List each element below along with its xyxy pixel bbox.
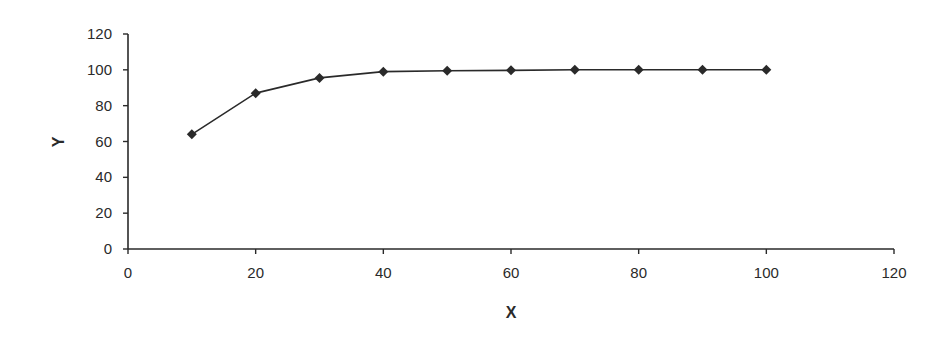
y-tick-label: 80 [95, 97, 112, 114]
x-axis: 020406080100120 [124, 249, 907, 281]
y-tick-label: 60 [95, 133, 112, 150]
series-line [192, 70, 767, 135]
x-tick-label: 20 [247, 264, 264, 281]
data-point-marker [570, 65, 580, 75]
x-tick-label: 60 [503, 264, 520, 281]
data-point-marker [698, 65, 708, 75]
y-tick-label: 40 [95, 168, 112, 185]
x-tick-label: 80 [630, 264, 647, 281]
y-tick-label: 120 [87, 25, 112, 42]
data-point-marker [442, 66, 452, 76]
y-axis: 020406080100120 [87, 25, 128, 257]
data-point-marker [634, 65, 644, 75]
x-tick-label: 100 [754, 264, 779, 281]
data-point-marker [315, 73, 325, 83]
data-point-marker [761, 65, 771, 75]
line-chart: 020406080100120 020406080100120 X Y [0, 0, 952, 340]
data-point-marker [251, 88, 261, 98]
y-tick-label: 100 [87, 61, 112, 78]
x-tick-label: 40 [375, 264, 392, 281]
y-tick-label: 20 [95, 204, 112, 221]
x-tick-label: 120 [881, 264, 906, 281]
data-point-marker [378, 67, 388, 77]
data-point-marker [187, 129, 197, 139]
y-axis-title: Y [50, 136, 67, 147]
data-point-marker [506, 65, 516, 75]
data-series [187, 65, 772, 139]
y-tick-label: 0 [104, 240, 112, 257]
x-axis-title: X [506, 304, 517, 321]
x-tick-label: 0 [124, 264, 132, 281]
